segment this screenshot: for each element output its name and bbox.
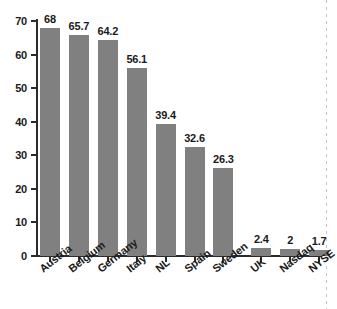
bar-value-label: 65.7	[69, 20, 90, 32]
y-axis: 010203040506070	[0, 0, 36, 309]
x-axis-category-label: NL	[153, 256, 172, 274]
y-axis-tick-label: 70	[15, 15, 27, 27]
bar-value-label: 39.4	[155, 109, 176, 121]
bar-chart: 010203040506070 6865.764.256.139.432.626…	[0, 0, 337, 309]
y-axis-tick-label: 50	[15, 82, 27, 94]
bar	[251, 248, 271, 256]
bar	[156, 124, 176, 256]
y-axis-tick-label: 0	[21, 250, 27, 262]
bar-value-label: 2.4	[254, 233, 269, 245]
y-axis-tick-label: 60	[15, 49, 27, 61]
bar-value-label: 68	[44, 13, 56, 25]
bar-value-label: 32.6	[184, 132, 205, 144]
bar-value-label: 2	[287, 234, 293, 246]
bar-value-label: 26.3	[213, 153, 234, 165]
bar	[213, 168, 233, 256]
bar-value-label: 1.7	[312, 235, 327, 247]
x-axis-category-label: UK	[248, 255, 268, 274]
bar	[185, 147, 205, 256]
y-axis-tick-label: 20	[15, 183, 27, 195]
y-axis-tick-label: 30	[15, 149, 27, 161]
y-axis-tick-label: 40	[15, 116, 27, 128]
y-axis-tick-label: 10	[15, 216, 27, 228]
bar	[127, 68, 147, 256]
bar-value-label: 64.2	[97, 25, 118, 37]
bar	[40, 28, 60, 256]
bar-value-label: 56.1	[126, 53, 147, 65]
bar	[69, 35, 89, 256]
bar	[98, 40, 118, 256]
plot-area: 6865.764.256.139.432.626.32.421.7	[36, 21, 322, 256]
